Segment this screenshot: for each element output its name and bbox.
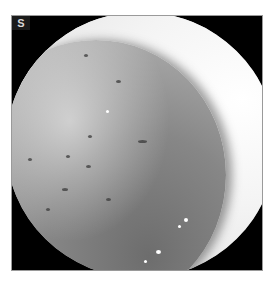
dark-spot: [62, 188, 68, 191]
dark-spot: [28, 158, 32, 161]
specular-highlight: [106, 110, 109, 113]
dark-spot: [88, 135, 92, 138]
dark-spot: [106, 198, 111, 201]
dark-spot: [138, 140, 147, 143]
specular-highlight: [156, 250, 161, 254]
specular-highlight: [178, 225, 181, 228]
endoscopy-image-frame: S: [12, 16, 262, 270]
specular-highlight: [184, 218, 188, 222]
dark-spot: [46, 208, 50, 211]
image-label: S: [12, 16, 30, 30]
dark-spot: [66, 155, 70, 158]
dark-spot: [116, 80, 121, 83]
specular-highlight: [144, 260, 147, 263]
scope-field-of-view: [12, 16, 262, 270]
dark-spot: [86, 165, 91, 168]
dark-spot: [84, 54, 88, 57]
